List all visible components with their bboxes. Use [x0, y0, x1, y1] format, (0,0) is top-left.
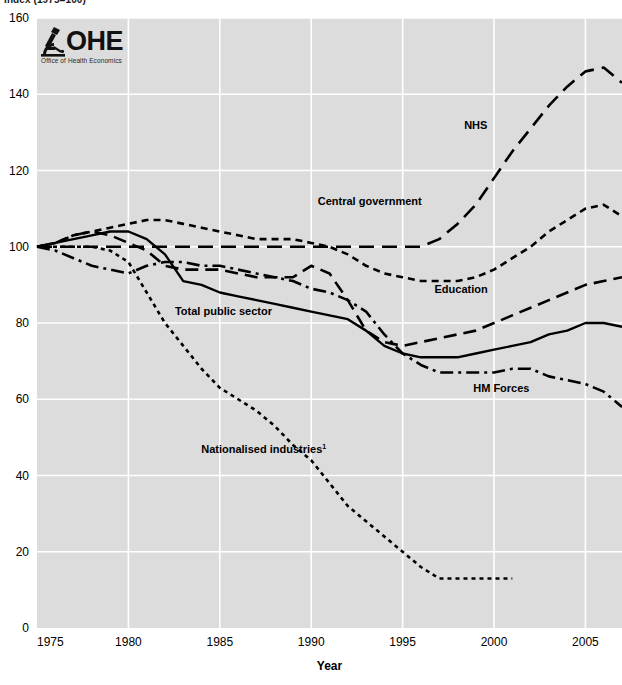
y-tick-label: 60: [16, 392, 30, 406]
y-tick-label: 160: [9, 11, 29, 25]
x-tick-label: 1975: [37, 635, 64, 649]
series-label-nationalised-industries: Nationalised industries1: [201, 443, 326, 455]
microscope-icon: [40, 26, 66, 58]
x-tick-label: 1985: [206, 635, 233, 649]
ohe-wordmark: OHE: [66, 28, 123, 55]
x-axis-title: Year: [317, 659, 343, 673]
x-tick-label: 2005: [572, 635, 599, 649]
x-tick-label: 1995: [389, 635, 416, 649]
series-label-nhs: NHS: [464, 119, 487, 131]
series-label-hm-forces: HM Forces: [473, 382, 529, 394]
y-tick-label: 20: [16, 545, 30, 559]
ohe-logo: OHE Office of Health Economics: [40, 26, 142, 70]
chart-page: Index (1975=100) NHSCentral governmentEd…: [0, 0, 622, 685]
y-tick-label: 140: [9, 87, 29, 101]
y-tick-label: 120: [9, 164, 29, 178]
series-label-total-public-sector: Total public sector: [175, 305, 273, 317]
series-label-education: Education: [435, 283, 488, 295]
ohe-subtitle: Office of Health Economics: [41, 57, 122, 64]
y-tick-label: 0: [22, 621, 29, 635]
x-tick-label: 1990: [298, 635, 325, 649]
x-tick-label: 2000: [481, 635, 508, 649]
y-tick-label: 80: [16, 316, 30, 330]
y-tick-label: 40: [16, 469, 30, 483]
line-chart: NHSCentral governmentEducationTotal publ…: [0, 0, 622, 685]
series-label-central-government: Central government: [318, 195, 422, 207]
x-tick-label: 1980: [115, 635, 142, 649]
y-tick-label: 100: [9, 240, 29, 254]
